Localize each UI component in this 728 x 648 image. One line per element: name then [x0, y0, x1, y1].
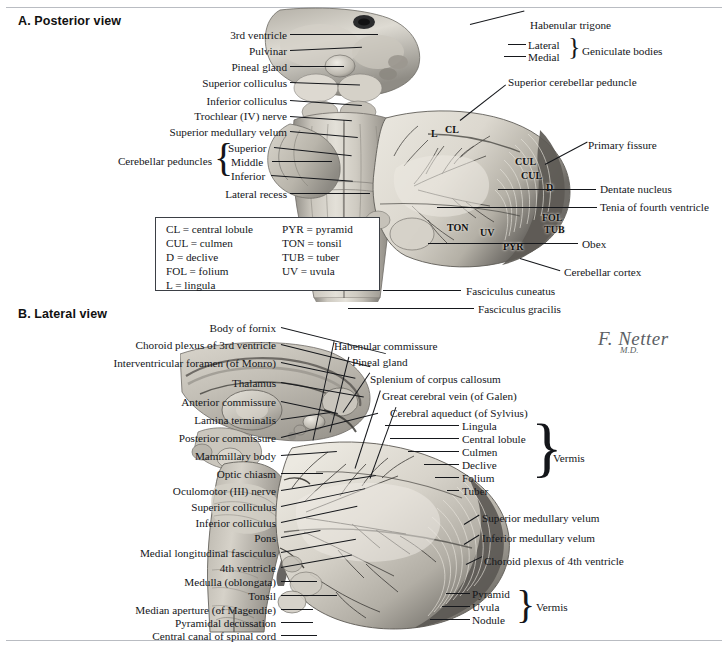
label-uvula: Uvula — [472, 601, 499, 613]
leader-culmen — [408, 451, 459, 452]
label-anterior-commissure: Anterior commissure — [181, 396, 276, 408]
leader-nodule — [430, 619, 470, 620]
leader-medulla-oblongata — [281, 581, 317, 582]
label-central-canal-spinal-cord: Central canal of spinal cord — [152, 630, 276, 642]
abbr-FOL: FOL — [542, 212, 563, 223]
label-inferior-colliculus-b: Inferior colliculus — [196, 517, 276, 529]
legend-item-cl: CL = central lobule — [166, 223, 278, 236]
leader-medial-longitudinal-fasciculus — [281, 539, 356, 553]
leader-pyramidal-decussation — [281, 622, 313, 623]
label-culmen: Culmen — [462, 446, 497, 458]
leader-peduncle-middle — [272, 161, 332, 162]
abbr-CUL-2: CUL — [521, 170, 542, 181]
label-dentate-nucleus: Dentate nucleus — [600, 183, 672, 195]
legend-item-d: D = declive — [166, 251, 278, 264]
leader-inferior-colliculus-b — [281, 506, 358, 523]
panel-a-title: A. Posterior view — [18, 14, 121, 28]
label-interventricular-foramen: Interventricular foramen (of Monro) — [114, 357, 276, 369]
label-primary-fissure: Primary fissure — [588, 139, 657, 151]
label-pyramidal-decussation: Pyramidal decussation — [175, 617, 276, 629]
label-tenia-fourth-ventricle: Tenia of fourth ventricle — [600, 201, 709, 213]
label-fasciculus-cuneatus: Fasciculus cuneatus — [466, 285, 555, 297]
label-trochlear-nerve: Trochlear (IV) nerve — [194, 110, 287, 122]
top-rule — [6, 7, 722, 8]
abbr-TON: TON — [447, 222, 469, 233]
label-optic-chiasm: Optic chiasm — [217, 468, 276, 480]
leader-inferior-medullary-velum — [464, 535, 480, 545]
label-vermis-upper: Vermis — [553, 452, 585, 464]
artist-signature: F. Netter M.D. — [598, 328, 669, 355]
leader-optic-chiasm — [281, 473, 323, 474]
label-splenium-corpus-callosum: Splenium of corpus callosum — [370, 373, 501, 385]
label-lateral-recess: Lateral recess — [225, 188, 287, 200]
abbr-CUL-1: CUL — [515, 156, 536, 167]
leader-declive — [424, 464, 459, 465]
leader-pons — [281, 530, 321, 538]
leader-tuber — [447, 490, 459, 491]
legend-item-fol: FOL = folium — [166, 265, 278, 278]
label-posterior-commissure: Posterior commissure — [179, 432, 276, 444]
label-obex: Obex — [582, 238, 606, 250]
label-declive: Declive — [462, 459, 497, 471]
leader-choroid-plexus-4th-ventricle — [466, 556, 483, 565]
leader-superior-medullary-velum-a — [290, 131, 358, 138]
abbreviation-legend: CL = central lobule PYR = pyramid CUL = … — [155, 217, 380, 291]
geniculate-bodies-brace: } — [568, 34, 580, 60]
label-superior-medullary-velum-b: Superior medullary velum — [482, 512, 599, 524]
leader-tenia-fourth-ventricle — [437, 207, 597, 208]
label-cerebral-aqueduct: Cerebral aqueduct (of Sylvius) — [390, 407, 528, 419]
label-inferior-colliculus-a: Inferior colliculus — [207, 95, 287, 107]
legend-item-l: L = lingula — [166, 279, 278, 292]
leader-lingula — [385, 425, 459, 426]
label-tonsil: Tonsil — [248, 590, 276, 602]
leader-superior-colliculus-b — [281, 488, 365, 507]
label-medulla-oblongata: Medulla (oblongata) — [184, 576, 276, 588]
leader-habenular-trigone — [470, 10, 525, 25]
leader-3rd-ventricle — [290, 34, 378, 35]
label-pons: Pons — [254, 532, 276, 544]
leader-trochlear-nerve — [290, 116, 352, 121]
label-lingula: Lingula — [462, 420, 497, 432]
leader-fasciculus-cuneatus — [383, 290, 461, 291]
label-medial-longitudinal-fasciculus: Medial longitudinal fasciculus — [140, 547, 276, 559]
leader-superior-cerebellar-peduncle — [460, 84, 506, 120]
label-cerebellar-peduncles: Cerebellar peduncles — [118, 155, 212, 167]
leader-central-canal-spinal-cord — [281, 635, 317, 636]
label-pineal-gland-b: Pineal gland — [352, 356, 408, 368]
abbr-UV: UV — [480, 227, 494, 238]
leader-geniculate-medial — [504, 56, 526, 57]
leader-superior-medullary-velum-b — [464, 515, 480, 525]
leader-primary-fissure — [545, 142, 588, 165]
label-inferior-medullary-velum: Inferior medullary velum — [482, 532, 595, 544]
leader-central-lobule — [390, 438, 459, 439]
leader-fasciculus-gracilis — [348, 308, 474, 309]
leader-obex — [428, 243, 578, 244]
panel-b-title: B. Lateral view — [18, 307, 107, 321]
label-pulvinar: Pulvinar — [249, 45, 287, 57]
label-vermis-lower: Vermis — [536, 601, 568, 613]
label-folium: Folium — [462, 472, 494, 484]
leader-tonsil — [281, 595, 337, 596]
bottom-rule — [6, 640, 722, 641]
leader-inferior-colliculus-a — [290, 100, 362, 106]
label-habenular-commissure: Habenular commissure — [334, 340, 437, 352]
leader-uvula — [442, 606, 470, 607]
label-nodule: Nodule — [472, 614, 505, 626]
legend-item-pyr: PYR = pyramid — [282, 223, 374, 236]
label-peduncle-inferior: Inferior — [231, 170, 265, 182]
leader-cerebral-aqueduct — [370, 407, 397, 479]
legend-item-ton: TON = tonsil — [282, 237, 374, 250]
label-body-of-fornix: Body of fornix — [210, 322, 277, 334]
label-median-aperture: Median aperture (of Magendie) — [135, 604, 276, 616]
label-choroid-plexus-4th-ventricle: Choroid plexus of 4th ventricle — [484, 555, 624, 567]
leader-peduncle-inferior — [271, 175, 353, 182]
leader-median-aperture — [281, 609, 313, 610]
vermis-upper-brace: } — [531, 414, 563, 480]
leader-dentate-nucleus — [498, 189, 596, 190]
label-peduncle-middle: Middle — [231, 156, 263, 168]
label-habenular-trigone: Habenular trigone — [530, 19, 611, 31]
leader-4th-ventricle — [281, 555, 352, 568]
label-lamina-terminalis: Lamina terminalis — [194, 414, 276, 426]
leader-cerebellar-cortex — [520, 258, 560, 271]
leader-folium — [435, 477, 459, 478]
